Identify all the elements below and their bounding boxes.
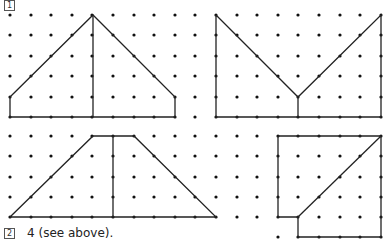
grid-dot [29, 154, 32, 157]
grid-dot [193, 115, 196, 118]
grid-dot [296, 74, 299, 77]
grid-dot [90, 154, 93, 157]
grid-dot [235, 195, 238, 198]
grid-dot [193, 33, 196, 36]
grid-dot [132, 154, 135, 157]
grid-dot [338, 95, 341, 98]
grid-dot [70, 134, 73, 137]
grid-dot [193, 154, 196, 157]
grid-dot [152, 134, 155, 137]
grid-dot [317, 33, 320, 36]
grid-dot [70, 54, 73, 57]
grid-dot [173, 134, 176, 137]
grid-dot [255, 13, 258, 16]
grid-dot [8, 195, 11, 198]
question-number-1: 1 [4, 0, 15, 11]
grid-dot [49, 195, 52, 198]
grid-dot [193, 95, 196, 98]
grid-dot [111, 13, 114, 16]
grid-dot [358, 195, 361, 198]
grid-dot [90, 195, 93, 198]
question-number-2: 2 [4, 228, 15, 239]
grid-dot [152, 54, 155, 57]
grid-dot [235, 54, 238, 57]
grid-dot [296, 33, 299, 36]
grid-dot [173, 74, 176, 77]
grid-dot [193, 74, 196, 77]
grid-dot [49, 134, 52, 137]
grid-dot [255, 195, 258, 198]
grid-dot [8, 33, 11, 36]
grid-dot [255, 74, 258, 77]
grid-dot [317, 95, 320, 98]
grid-dot [29, 33, 32, 36]
grid-dot [255, 154, 258, 157]
grid-dot [255, 95, 258, 98]
grid-dot [296, 13, 299, 16]
grid-dot [111, 74, 114, 77]
grid-dot [8, 134, 11, 137]
grid-dot [296, 154, 299, 157]
grid-dot [132, 195, 135, 198]
grid-dot [132, 175, 135, 178]
grid-dot [8, 154, 11, 157]
grid-dot [8, 175, 11, 178]
grid-dot [49, 95, 52, 98]
grid-dot [49, 154, 52, 157]
answer-text: 4 (see above). [27, 226, 113, 240]
grid-dot [317, 54, 320, 57]
grid-dot [29, 95, 32, 98]
grid-dot [152, 33, 155, 36]
grid-dot [49, 33, 52, 36]
grid-dot [29, 54, 32, 57]
grid-dot [358, 13, 361, 16]
grid-dot [338, 215, 341, 218]
grid-dot [296, 54, 299, 57]
grid-dot [235, 154, 238, 157]
grid-dot [255, 175, 258, 178]
figure-house-split [10, 15, 175, 117]
grid-dot [49, 74, 52, 77]
grid-dot [317, 175, 320, 178]
grid-dot [70, 175, 73, 178]
grid-dot [152, 95, 155, 98]
grid-dot [29, 134, 32, 137]
grid-dot [276, 13, 279, 16]
grid-dot [214, 154, 217, 157]
grid-dot [111, 95, 114, 98]
grid-dot [132, 74, 135, 77]
grid-dot [132, 33, 135, 36]
grid-dot [317, 215, 320, 218]
grid-dot [173, 13, 176, 16]
grid-dot [358, 215, 361, 218]
grid-dot [255, 33, 258, 36]
grid-dot [338, 195, 341, 198]
grid-dot [235, 215, 238, 218]
grid-dot [152, 13, 155, 16]
grid-dot [8, 13, 11, 16]
grid-dot [338, 74, 341, 77]
grid-dot [29, 175, 32, 178]
grid-dot [358, 74, 361, 77]
grid-dot [173, 54, 176, 57]
dot-grid-diagram [0, 0, 387, 242]
grid-dot [70, 95, 73, 98]
grid-dot [276, 33, 279, 36]
grid-dot [152, 195, 155, 198]
grid-dot [317, 154, 320, 157]
grid-dot [338, 33, 341, 36]
grid-dot [235, 134, 238, 137]
grid-dot [276, 54, 279, 57]
grid-dot [358, 95, 361, 98]
figure-v-shape [216, 15, 381, 117]
grid-dot [193, 54, 196, 57]
grid-dot [70, 195, 73, 198]
grid-dot [193, 175, 196, 178]
grid-dot [132, 13, 135, 16]
grid-dot [8, 74, 11, 77]
grid-dot [276, 95, 279, 98]
grid-dot [317, 13, 320, 16]
grid-dot [29, 13, 32, 16]
grid-dot [111, 54, 114, 57]
grid-dot [235, 175, 238, 178]
